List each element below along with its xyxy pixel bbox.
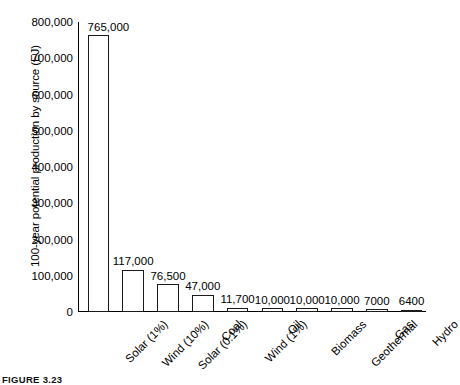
y-tick-label: 300,000: [31, 197, 73, 209]
y-tick-label: 800,000: [31, 16, 73, 28]
bar[interactable]: [88, 35, 110, 312]
bar-slot: 765,000: [88, 35, 110, 312]
bar[interactable]: [366, 309, 388, 312]
bar-slot: 11,700: [227, 308, 249, 312]
y-tick-label: 100,000: [31, 270, 73, 282]
y-axis-line: [78, 22, 79, 312]
bar-slot: 47,000: [192, 295, 214, 312]
bar-value-label: 10,000: [324, 294, 359, 307]
bar[interactable]: [192, 295, 214, 312]
bar-value-label: 10,000: [255, 294, 290, 307]
bar-slot: 6400: [401, 310, 423, 312]
bar[interactable]: [262, 308, 284, 312]
y-tick-label: 400,000: [31, 161, 73, 173]
bar-slot: 10,000: [262, 308, 284, 312]
bar-slot: 10,000: [296, 308, 318, 312]
y-tick-label: 600,000: [31, 89, 73, 101]
bar-value-label: 47,000: [185, 280, 220, 293]
y-tick-label: 200,000: [31, 234, 73, 246]
figure-caption: FIGURE 3.23: [2, 374, 62, 385]
bar-value-label: 765,000: [88, 21, 130, 34]
bar-value-label: 76,500: [150, 270, 185, 283]
bar[interactable]: [331, 308, 353, 312]
bar[interactable]: [227, 308, 249, 312]
bar[interactable]: [401, 310, 423, 312]
bar[interactable]: [296, 308, 318, 312]
y-tick-label: 0: [67, 306, 73, 318]
x-tick-label: Biomass: [329, 318, 369, 358]
bar[interactable]: [122, 270, 144, 312]
bar-slot: 117,000: [122, 270, 144, 312]
bar-value-label: 117,000: [113, 255, 154, 268]
bar-slot: 76,500: [157, 284, 179, 312]
bar-value-label: 10,000: [290, 294, 325, 307]
bar[interactable]: [157, 284, 179, 312]
y-tick-label: 700,000: [31, 52, 73, 64]
bar-value-label: 7000: [364, 295, 390, 308]
bar-slot: 7000: [366, 309, 388, 312]
bar-slot: 10,000: [331, 308, 353, 312]
plot-area: 0100,000200,000300,000400,000500,000600,…: [78, 22, 426, 312]
y-tick-label: 500,000: [31, 125, 73, 137]
bar-value-label: 11,700: [220, 293, 254, 306]
bar-value-label: 6400: [399, 295, 425, 308]
x-tick-label: Hydro: [430, 318, 460, 348]
